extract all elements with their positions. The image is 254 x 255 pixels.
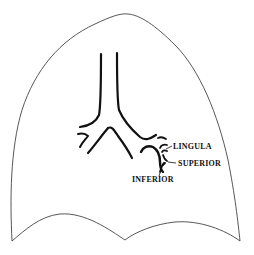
trachea-right-wall (117, 53, 156, 139)
lung-diagram: LINGULA SUPERIOR INFERIOR (0, 0, 254, 255)
label-lingula: LINGULA (173, 142, 212, 151)
lung-diagram-svg (0, 0, 254, 255)
lingula-branch (160, 145, 167, 148)
lower-lobe-bronchus (141, 146, 163, 172)
trachea-left-wall (80, 54, 101, 127)
carina (88, 127, 132, 158)
superior-leader (168, 162, 176, 163)
label-superior: SUPERIOR (178, 159, 221, 168)
label-inferior: INFERIOR (132, 175, 174, 184)
lingula-branch-top (158, 137, 166, 139)
right-upper-branch (78, 134, 88, 147)
lingula-leader (166, 146, 172, 149)
lung-outline (11, 14, 240, 241)
superior-branch (162, 150, 167, 161)
